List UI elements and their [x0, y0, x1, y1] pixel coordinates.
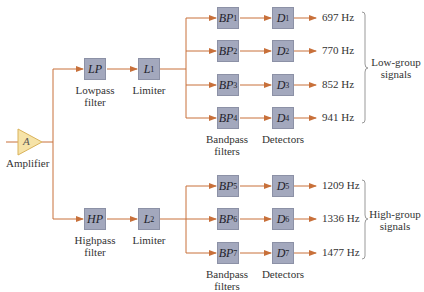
detectors-label-low: Detectors: [256, 133, 310, 145]
bandpass-6-block: BP6: [217, 208, 239, 230]
lowpass-filter-block: LP: [84, 58, 106, 80]
highpass-filter-block: HP: [84, 208, 106, 230]
freq-697: 697 Hz: [322, 11, 354, 23]
amplifier-symbol: A: [23, 135, 30, 147]
detectors-label-high: Detectors: [256, 268, 310, 280]
limiter-2-label: Limiter: [128, 234, 170, 246]
detector-3-block: D3: [272, 74, 294, 96]
detector-5-block: D5: [272, 175, 294, 197]
bandpass-filters-label-low: Bandpass filters: [201, 133, 253, 157]
high-group-label: High-group signals: [366, 208, 424, 232]
freq-941: 941 Hz: [322, 111, 354, 123]
detector-2-block: D2: [272, 40, 294, 62]
bandpass-7-block: BP7: [217, 242, 239, 264]
amplifier-label: Amplifier: [6, 157, 49, 169]
freq-1336: 1336 Hz: [322, 212, 360, 224]
limiter-2-block: L2: [138, 208, 160, 230]
detector-7-block: D7: [272, 242, 294, 264]
detector-6-block: D6: [272, 208, 294, 230]
freq-1209: 1209 Hz: [322, 179, 360, 191]
bandpass-2-block: BP2: [217, 40, 239, 62]
low-group-label: Low-group signals: [368, 56, 424, 80]
freq-852: 852 Hz: [322, 78, 354, 90]
bandpass-5-block: BP5: [217, 175, 239, 197]
lowpass-filter-label: Lowpass filter: [74, 84, 116, 108]
amplifier-triangle-icon: [18, 129, 42, 155]
bandpass-1-block: BP1: [217, 7, 239, 29]
limiter-1-label: Limiter: [128, 84, 170, 96]
bandpass-filters-label-high: Bandpass filters: [201, 268, 253, 292]
detector-1-block: D1: [272, 7, 294, 29]
bandpass-4-block: BP4: [217, 107, 239, 129]
bandpass-3-block: BP3: [217, 74, 239, 96]
highpass-filter-label: Highpass filter: [72, 234, 118, 258]
limiter-1-block: L1: [138, 58, 160, 80]
detector-4-block: D4: [272, 107, 294, 129]
freq-770: 770 Hz: [322, 44, 354, 56]
freq-1477: 1477 Hz: [322, 246, 360, 258]
